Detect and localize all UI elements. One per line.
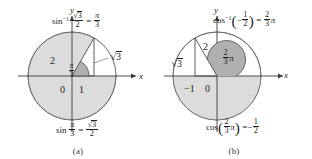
x-tick-label-a: 1 <box>79 85 84 95</box>
equation-arcsin-a: sin−1 √3 2 = π 3 <box>52 11 101 30</box>
eq-a-bottom-result-numerator: √3 <box>86 120 98 129</box>
eq-b-top-result-fraction: 2 3 <box>264 11 270 29</box>
hypotenuse-label-b: 2 <box>203 42 208 52</box>
eq-b-top-close-paren: ) <box>249 13 254 28</box>
eq-a-top-result-numerator: π <box>94 12 100 20</box>
eq-b-top-result-symbol: π <box>271 15 276 25</box>
x-axis-arrow-b <box>278 74 283 79</box>
eq-b-top-argument-denominator: 2 <box>242 19 248 28</box>
eq-a-bottom-function: sin <box>56 125 67 135</box>
eq-a-bottom-angle-denominator: 3 <box>69 129 75 138</box>
origin-label-a: 0 <box>60 85 65 95</box>
angle-label-a: π 3 <box>68 62 75 78</box>
angle-label-b: 2 3 π <box>222 49 234 67</box>
caption-b: (b) <box>156 146 312 156</box>
eq-a-bottom-angle-numerator: π <box>69 121 75 129</box>
eq-b-top-argument-sign: − <box>237 15 242 25</box>
eq-a-bottom-angle-fraction: π 3 <box>69 121 75 139</box>
equation-arccos-b: cos−1(− 1 2 ) = 2 3 π <box>213 11 275 29</box>
eq-b-bottom-function: cos <box>206 122 218 132</box>
eq-a-top-function: sin <box>52 16 63 26</box>
origin-label-b: 0 <box>205 84 210 94</box>
figure-panel-a: y x sin−1 √3 2 = π 3 sin π 3 = √3 2 2 π … <box>0 0 156 159</box>
eq-b-top-function: cos <box>213 15 225 25</box>
eq-b-bottom-angle-denominator: 3 <box>224 126 230 135</box>
x-tick-label-b: −1 <box>184 84 195 94</box>
eq-b-top-equals: = <box>256 15 261 25</box>
eq-b-top-argument-fraction: 1 2 <box>242 11 248 29</box>
figure-panel-b: y x cos−1(− 1 2 ) = 2 3 π cos( 2 3 π) =−… <box>156 0 312 159</box>
adjacent-side-label-b: √3 <box>171 58 183 69</box>
eq-b-bottom-angle-fraction: 2 3 <box>224 118 230 136</box>
equation-sin-a: sin π 3 = √3 2 <box>56 120 98 139</box>
eq-a-top-superscript: −1 <box>63 16 70 22</box>
eq-a-top-argument-denominator: 2 <box>72 20 84 29</box>
eq-a-top-argument-numerator: √3 <box>72 11 84 20</box>
eq-b-bottom-close-paren: ) <box>235 120 240 135</box>
radicand-b: 3 <box>177 58 183 69</box>
eq-a-bottom-result-fraction: √3 2 <box>86 120 98 139</box>
eq-b-bottom-result-numerator: 1 <box>253 118 259 126</box>
eq-b-bottom-angle-numerator: 2 <box>224 118 230 126</box>
angle-label-b-numerator: 2 <box>223 49 229 57</box>
eq-a-top-argument-fraction: √3 2 <box>72 11 84 30</box>
caption-a: (a) <box>0 146 156 156</box>
eq-a-top-equals: = <box>86 16 91 26</box>
eq-a-bottom-equals: = <box>78 125 83 135</box>
eq-a-bottom-result-denominator: 2 <box>86 129 98 138</box>
eq-a-top-result-denominator: 3 <box>94 20 100 29</box>
eq-b-top-argument-numerator: 1 <box>242 11 248 19</box>
opposite-side-label-a: √3 <box>110 51 122 62</box>
hypotenuse-label-a: 2 <box>50 56 55 66</box>
x-axis-label-a: x <box>139 72 143 81</box>
angle-label-a-denominator: 3 <box>69 70 75 79</box>
x-axis-label-b: x <box>284 71 288 80</box>
radicand-a: 3 <box>116 51 122 62</box>
eq-a-top-result-fraction: π 3 <box>94 12 100 30</box>
eq-b-top-result-numerator: 2 <box>264 11 270 19</box>
angle-label-b-denominator: 3 <box>223 57 229 66</box>
eq-b-bottom-result-denominator: 2 <box>253 126 259 135</box>
angle-label-b-symbol: π <box>229 53 234 63</box>
eq-b-bottom-result-fraction: 1 2 <box>253 118 259 136</box>
equation-cos-b: cos( 2 3 π) =− 1 2 <box>206 118 259 136</box>
eq-b-bottom-open-paren: ( <box>218 120 223 135</box>
eq-b-top-result-denominator: 3 <box>264 19 270 28</box>
eq-b-bottom-result-sign: − <box>247 122 252 132</box>
angle-label-a-numerator: π <box>69 62 75 70</box>
x-axis-arrow-a <box>131 74 136 79</box>
